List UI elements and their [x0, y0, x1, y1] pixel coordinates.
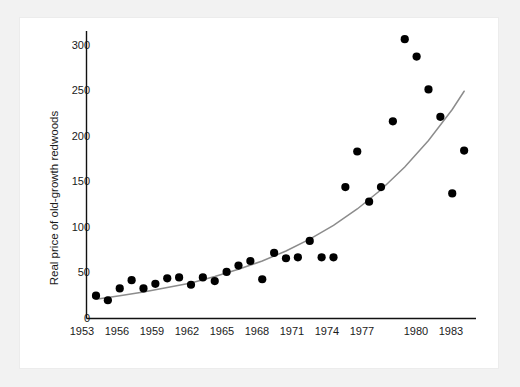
- data-point: [246, 257, 254, 265]
- x-tick-label-1980: 1980: [404, 325, 428, 337]
- data-point: [365, 198, 373, 206]
- y-tick-label-100: 100: [72, 221, 90, 233]
- x-tick-label-1968: 1968: [245, 325, 269, 337]
- y-axis-title-group: Real price of old-growth redwoods: [48, 111, 60, 286]
- data-point: [211, 277, 219, 285]
- data-point: [341, 183, 349, 191]
- data-point: [389, 117, 397, 125]
- x-tick-label-1953: 1953: [70, 325, 94, 337]
- data-point: [282, 254, 290, 262]
- data-point: [460, 146, 468, 154]
- data-point: [199, 273, 207, 281]
- x-tick-label-1974: 1974: [315, 325, 339, 337]
- y-tick-label-50: 50: [78, 266, 90, 278]
- fit-trend-curve: [96, 91, 464, 299]
- chart-screenshot: Real price of old-growth redwoods 300 25…: [0, 0, 520, 387]
- data-point: [329, 253, 337, 261]
- data-point: [104, 296, 112, 304]
- x-tick-label-1983: 1983: [439, 325, 463, 337]
- data-point: [258, 275, 266, 283]
- x-tick-label-1959: 1959: [140, 325, 164, 337]
- data-point: [234, 261, 242, 269]
- y-tick-label-250: 250: [72, 84, 90, 96]
- data-point: [401, 35, 409, 43]
- y-tick-label-200: 200: [72, 130, 90, 142]
- data-point: [116, 284, 124, 292]
- x-tick-label-1962: 1962: [175, 325, 199, 337]
- data-point: [128, 276, 136, 284]
- data-point: [436, 113, 444, 121]
- data-point: [318, 253, 326, 261]
- x-tick-labels: 1953 1956 1959 1962 1965 1968 1971 1974 …: [70, 325, 463, 337]
- x-tick-label-1965: 1965: [210, 325, 234, 337]
- data-point: [92, 292, 100, 300]
- data-point: [151, 280, 159, 288]
- data-point: [175, 273, 183, 281]
- data-point: [448, 189, 456, 197]
- y-tick-label-300: 300: [72, 39, 90, 51]
- data-point: [306, 237, 314, 245]
- x-tick-label-1971: 1971: [280, 325, 304, 337]
- y-axis-title: Real price of old-growth redwoods: [48, 111, 60, 286]
- x-tick-label-1956: 1956: [105, 325, 129, 337]
- data-point: [294, 253, 302, 261]
- data-point: [377, 183, 385, 191]
- data-point: [223, 268, 231, 276]
- y-tick-label-150: 150: [72, 175, 90, 187]
- y-tick-labels: 300 250 200 150 100 50 0: [72, 39, 90, 324]
- data-point: [353, 147, 361, 155]
- data-point: [413, 52, 421, 60]
- data-points-group: [92, 35, 468, 304]
- data-point: [139, 284, 147, 292]
- data-point: [270, 249, 278, 257]
- data-point: [424, 85, 432, 93]
- data-point: [187, 281, 195, 289]
- data-point: [163, 274, 171, 282]
- x-tick-label-1977: 1977: [350, 325, 374, 337]
- scatter-plot: Real price of old-growth redwoods 300 25…: [20, 18, 498, 368]
- figure-panel: Real price of old-growth redwoods 300 25…: [20, 18, 498, 368]
